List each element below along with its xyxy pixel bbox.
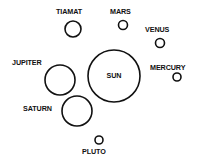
solar-system-diagram: TIAMAT MARS VENUS MERCURY SUN JUPITER SA… (0, 0, 200, 163)
body-mars: MARS (110, 7, 131, 30)
mercury-label: MERCURY (150, 63, 186, 72)
pluto-circle (95, 136, 103, 144)
mars-label: MARS (110, 7, 131, 16)
pluto-label: PLUTO (82, 147, 106, 156)
mercury-circle (173, 73, 181, 81)
body-venus: VENUS (145, 25, 170, 48)
jupiter-label: JUPITER (12, 58, 43, 67)
jupiter-circle (45, 65, 75, 95)
mars-circle (119, 21, 128, 30)
body-tiamat: TIAMAT (56, 7, 83, 37)
tiamat-circle (65, 21, 81, 37)
venus-label: VENUS (145, 25, 170, 34)
saturn-label: SATURN (23, 104, 52, 113)
body-pluto: PLUTO (82, 136, 106, 156)
body-sun: SUN (88, 50, 140, 102)
saturn-circle (62, 96, 92, 126)
tiamat-label: TIAMAT (56, 7, 83, 16)
body-mercury: MERCURY (150, 63, 186, 81)
body-jupiter: JUPITER (12, 58, 75, 95)
body-saturn: SATURN (23, 96, 92, 126)
venus-circle (156, 39, 165, 48)
sun-label: SUN (107, 71, 122, 80)
